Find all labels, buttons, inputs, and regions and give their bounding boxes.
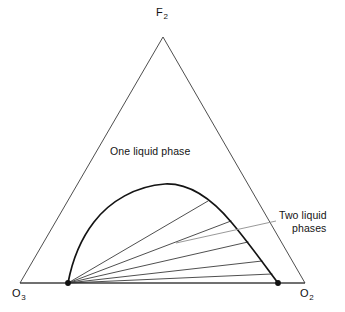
vertex-bottom-right-symbol: O bbox=[300, 287, 309, 299]
binodal-curve bbox=[68, 184, 278, 283]
vertex-label-bottom-left: O3 bbox=[12, 287, 26, 299]
vertex-label-bottom-right: O2 bbox=[300, 287, 314, 299]
tie-line bbox=[68, 201, 208, 283]
tie-line bbox=[68, 242, 248, 283]
vertex-bottom-left-symbol: O bbox=[12, 287, 21, 299]
vertex-apex-symbol: F bbox=[156, 6, 163, 18]
ternary-triangle-outline bbox=[20, 37, 305, 283]
two-liquid-phases-label: Two liquidphases bbox=[279, 209, 327, 234]
two-liquid-phases-label-line2: phases bbox=[279, 222, 327, 235]
tie-line-group bbox=[68, 201, 272, 283]
two-liquid-phases-label-line1: Two liquid bbox=[279, 209, 327, 221]
one-liquid-phase-label: One liquid phase bbox=[110, 145, 190, 157]
vertex-apex-subscript: 2 bbox=[163, 12, 168, 21]
callout-leader-line bbox=[176, 221, 276, 243]
tie-line bbox=[68, 274, 272, 283]
vertex-bottom-left-subscript: 3 bbox=[21, 293, 26, 302]
ternary-phase-diagram: F2 O3 O2 One liquid phase Two liquidphas… bbox=[0, 0, 345, 312]
vertex-label-apex: F2 bbox=[156, 6, 168, 18]
vertex-bottom-right-subscript: 2 bbox=[309, 293, 314, 302]
binodal-right-endpoint-marker bbox=[275, 280, 281, 286]
binodal-left-endpoint-marker bbox=[65, 280, 71, 286]
